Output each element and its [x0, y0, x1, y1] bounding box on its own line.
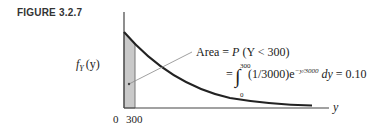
x-axis-label: y — [332, 100, 339, 114]
area-annotation: Area = P (Y < 300) — [196, 45, 289, 59]
x-tick-0: 0 — [113, 113, 119, 125]
x-tick-300: 300 — [126, 113, 143, 125]
lower-limit: 0 — [240, 91, 244, 99]
exponential-pdf-chart: fY(y) 0 300 y Area = P (Y < 300) = ∫ 300… — [0, 0, 375, 131]
integrand: (1/3000)e−y/3000dy = 0.10 — [248, 67, 367, 81]
y-axis-label: fY(y) — [76, 57, 100, 73]
equals-sign: = — [226, 67, 233, 81]
